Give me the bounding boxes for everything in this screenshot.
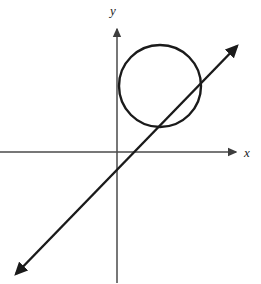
secant-line	[16, 46, 237, 274]
circle-curve	[119, 45, 201, 127]
graph-figure: y x	[0, 0, 261, 284]
graph-canvas	[0, 0, 261, 284]
x-axis-label: x	[244, 146, 250, 159]
y-axis-label: y	[110, 4, 116, 17]
